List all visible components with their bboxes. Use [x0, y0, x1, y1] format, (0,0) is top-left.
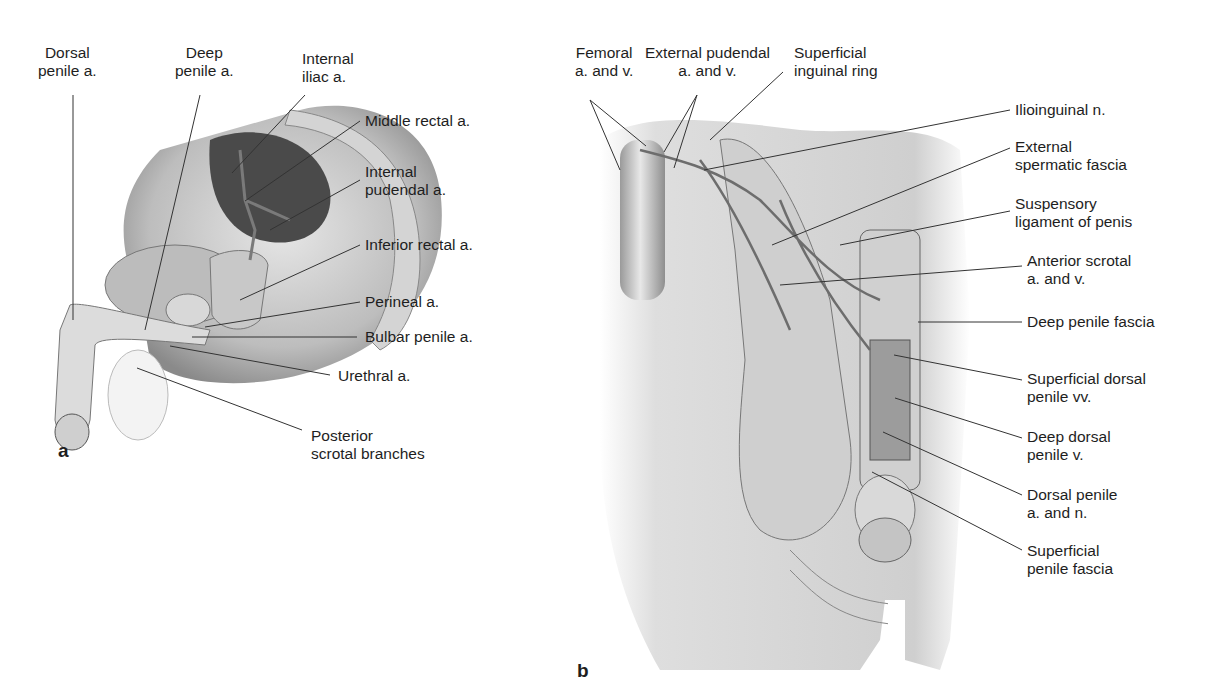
label-superficial-inguinal-ring: Superficial inguinal ring	[794, 44, 878, 80]
glans-tip-shape	[859, 518, 911, 562]
label-deep-penile-a: Deep penile a.	[175, 44, 234, 80]
label-suspensory-ligament: Suspensory ligament of penis	[1015, 195, 1132, 231]
label-anterior-scrotal-a-v: Anterior scrotal a. and v.	[1027, 252, 1131, 288]
label-urethral-a: Urethral a.	[338, 367, 410, 385]
prostate-shape	[166, 294, 210, 326]
label-superficial-penile-fascia: Superficial penile fascia	[1027, 542, 1113, 578]
femoral-vessels-shape	[620, 140, 665, 300]
label-inferior-rectal-a: Inferior rectal a.	[365, 236, 473, 254]
label-middle-rectal-a: Middle rectal a.	[365, 112, 470, 130]
label-external-spermatic-fascia: External spermatic fascia	[1015, 138, 1127, 174]
label-perineal-a: Perineal a.	[365, 293, 439, 311]
label-bulbar-penile-a: Bulbar penile a.	[365, 328, 473, 346]
label-ilioinguinal-n: Ilioinguinal n.	[1015, 101, 1105, 119]
label-deep-dorsal-penile-v: Deep dorsal penile v.	[1027, 428, 1111, 464]
label-internal-pudendal-a: Internal pudendal a.	[365, 163, 446, 199]
panel-b-artwork	[600, 120, 970, 670]
label-deep-penile-fascia: Deep penile fascia	[1027, 313, 1155, 331]
thigh-gap	[888, 600, 904, 670]
label-posterior-scrotal-branches: Posterior scrotal branches	[311, 427, 425, 463]
label-dorsal-penile-a-n: Dorsal penile a. and n.	[1027, 486, 1117, 522]
panel-a-letter: a	[58, 440, 69, 462]
scrotum-shape	[108, 350, 168, 440]
label-femoral-a-v: Femoral a. and v.	[575, 44, 633, 80]
label-internal-iliac-a: Internal iliac a.	[302, 50, 354, 86]
panel-a-artwork	[55, 106, 442, 450]
label-superficial-dorsal-penile-vv: Superficial dorsal penile vv.	[1027, 370, 1146, 406]
panel-b-letter: b	[577, 660, 589, 682]
label-external-pudendal-a-v: External pudendal a. and v.	[645, 44, 770, 80]
rectum-shape	[210, 251, 268, 330]
label-dorsal-penile-a: Dorsal penile a.	[38, 44, 97, 80]
